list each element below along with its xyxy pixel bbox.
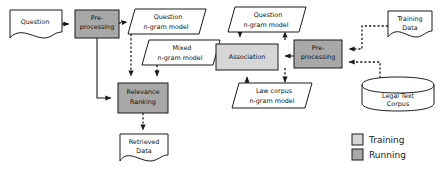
- node-preprocessing-right-label-1: Pre-: [312, 44, 324, 52]
- node-relevance-ranking[interactable]: Relevance Ranking: [118, 83, 168, 113]
- node-mixed-ngram[interactable]: Mixed n-gram model: [142, 40, 220, 65]
- node-question-ngram-left-label-1: Question: [154, 13, 183, 21]
- edge-preprocessing-left-to-relevance: [97, 38, 111, 98]
- node-preprocessing-right-label-2: processing: [301, 53, 335, 61]
- legend-swatch-running: [352, 149, 363, 160]
- edge-training-data-to-preprocessing-right: [349, 26, 388, 49]
- node-question-label: Question: [21, 18, 50, 26]
- pipeline-diagram: Question Pre- processing Question n-gram…: [0, 0, 442, 172]
- node-association-label: Association: [229, 53, 265, 61]
- edge-legal-text-corpus-to-preprocessing-right: [349, 62, 380, 78]
- legend-label-training: Training: [368, 135, 405, 145]
- legend-swatch-training: [352, 134, 363, 145]
- edge-preprocessing-left-to-question-ngram: [119, 22, 127, 23]
- node-question-ngram-left[interactable]: Question n-gram model: [128, 9, 206, 34]
- node-law-corpus-ngram[interactable]: Law corpus n-gram model: [232, 83, 312, 108]
- legend: Training Running: [352, 134, 406, 160]
- node-preprocessing-left-label-2: processing: [80, 23, 114, 31]
- node-question-ngram-right-label-1: Question: [254, 11, 283, 19]
- node-relevance-ranking-label-1: Relevance: [127, 88, 160, 96]
- node-training-data[interactable]: Training Data: [388, 11, 432, 37]
- node-question-ngram-right[interactable]: Question n-gram model: [228, 7, 306, 32]
- legend-item-running: Running: [352, 149, 406, 160]
- node-preprocessing-left[interactable]: Pre- processing: [75, 10, 119, 38]
- node-training-data-label-2: Data: [402, 24, 417, 32]
- node-question[interactable]: Question: [10, 10, 62, 38]
- legend-item-training: Training: [352, 134, 405, 145]
- node-retrieved-data[interactable]: Retrieved Data: [120, 134, 168, 161]
- node-question-ngram-left-label-2: n-gram model: [143, 23, 188, 31]
- node-legal-text-corpus-label-2: Corpus: [387, 100, 410, 108]
- node-retrieved-data-label-1: Retrieved: [129, 138, 160, 146]
- node-law-corpus-ngram-label-2: n-gram model: [249, 97, 294, 105]
- node-question-ngram-right-label-2: n-gram model: [243, 21, 288, 29]
- node-mixed-ngram-label-2: n-gram model: [157, 54, 202, 62]
- node-training-data-label-1: Training: [396, 15, 422, 23]
- node-law-corpus-ngram-label-1: Law corpus: [256, 87, 293, 95]
- node-legal-text-corpus-label-1: Legal Text: [382, 92, 415, 100]
- node-mixed-ngram-label-1: Mixed: [173, 44, 192, 52]
- node-association[interactable]: Association: [216, 44, 278, 70]
- node-relevance-ranking-label-2: Ranking: [130, 98, 156, 106]
- node-retrieved-data-label-2: Data: [136, 147, 151, 155]
- diagram-canvas: Question Pre- processing Question n-gram…: [0, 0, 442, 172]
- node-legal-text-corpus[interactable]: Legal Text Corpus: [362, 77, 434, 111]
- node-preprocessing-right[interactable]: Pre- processing: [294, 40, 342, 68]
- node-preprocessing-left-label-1: Pre-: [91, 14, 103, 22]
- legend-label-running: Running: [369, 150, 406, 160]
